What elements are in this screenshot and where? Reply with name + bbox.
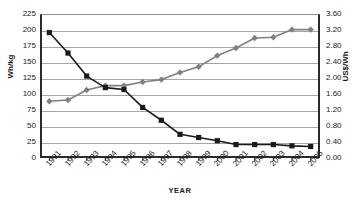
y-axis-left-tick: 200: [6, 26, 36, 34]
y-axis-right-tick: 0.80: [326, 122, 358, 130]
gridline: [42, 143, 318, 144]
y-axis-right-tick: 1.60: [326, 90, 358, 98]
y-axis-left-tick: 0: [6, 154, 36, 162]
y-axis-right-tick: 2.40: [326, 58, 358, 66]
y-axis-left-tick: 225: [6, 10, 36, 18]
y-axis-right-tick: 3.20: [326, 26, 358, 34]
gridline: [42, 95, 318, 96]
plot-area: [40, 14, 320, 158]
y-axis-left-tick: 75: [6, 106, 36, 114]
y-axis-right-tick: 2.00: [326, 74, 358, 82]
y-axis-left-tick: 100: [6, 90, 36, 98]
gridline: [42, 47, 318, 48]
y-axis-left-tick: 150: [6, 58, 36, 66]
gridline: [42, 127, 318, 128]
y-axis-right-tick: 0.40: [326, 138, 358, 146]
gridline: [42, 63, 318, 64]
gridline: [42, 79, 318, 80]
y-axis-right-tick: 2.80: [326, 42, 358, 50]
y-axis-left-tick: 25: [6, 138, 36, 146]
gridline: [42, 31, 318, 32]
gridline: [42, 111, 318, 112]
chart-container: Wh/kg US$/Wh YEAR 0255075100125150175200…: [0, 0, 362, 202]
x-axis-title: YEAR: [40, 186, 320, 195]
y-axis-right-tick: 1.20: [326, 106, 358, 114]
y-axis-left-tick: 125: [6, 74, 36, 82]
y-axis-right-tick: 3.60: [326, 10, 358, 18]
y-axis-left-tick: 50: [6, 122, 36, 130]
y-axis-right-tick: 0.00: [326, 154, 358, 162]
y-axis-left-tick: 175: [6, 42, 36, 50]
